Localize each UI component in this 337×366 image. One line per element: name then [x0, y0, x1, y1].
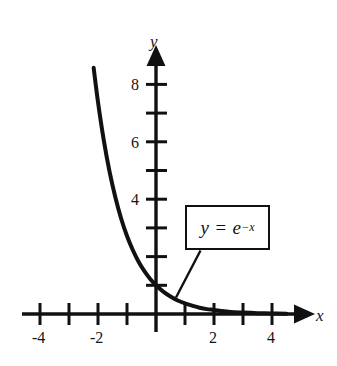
- y-tick-label-4: 4: [131, 192, 139, 208]
- exponential-decay-figure: -4 -2 2 4 4 6 8 x y y = e−x: [0, 0, 337, 366]
- plot-canvas: [0, 0, 337, 366]
- equation-callout-box: y = e−x: [185, 205, 270, 250]
- y-tick-label-6: 6: [131, 135, 139, 151]
- callout-leader-line: [176, 251, 201, 298]
- x-tick-label-neg4: -4: [32, 330, 45, 346]
- x-tick-label-neg2: -2: [90, 330, 103, 346]
- equation-lead-text: y = e: [200, 217, 241, 239]
- curve-exponential-decay: [94, 68, 287, 314]
- x-tick-label-pos4: 4: [267, 330, 275, 346]
- equation-exponent-text: −x: [241, 220, 254, 235]
- x-tick-label-pos2: 2: [209, 330, 217, 346]
- x-axis-label: x: [316, 307, 324, 324]
- equation-label: y = e−x: [187, 207, 268, 248]
- y-tick-label-8: 8: [131, 77, 139, 93]
- y-axis-label: y: [150, 33, 158, 50]
